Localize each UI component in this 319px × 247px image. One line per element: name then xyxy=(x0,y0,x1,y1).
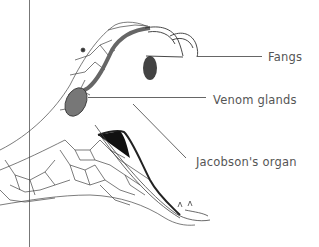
venom-glands-label: Venom glands xyxy=(213,93,297,107)
eye-icon xyxy=(81,48,85,52)
fangs-label: Fangs xyxy=(268,50,302,64)
jacobsons-organ-leader-line xyxy=(133,104,186,158)
illustration xyxy=(0,0,319,247)
snake-anatomy-diagram: Fangs Venom glands Jacobson's organ xyxy=(0,0,319,247)
jacobsons-organ-label: Jacobson's organ xyxy=(196,155,297,169)
fangs-drawing xyxy=(145,27,198,57)
